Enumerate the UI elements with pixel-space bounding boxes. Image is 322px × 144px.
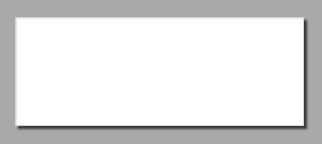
diagram-canvas xyxy=(0,0,322,144)
